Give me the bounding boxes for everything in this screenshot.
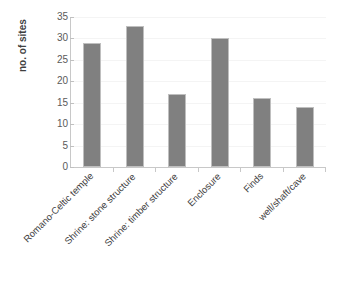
bar-chart: no. of sites 05101520253035 Romano-Celti…	[0, 0, 339, 283]
y-tick-mark	[70, 38, 74, 39]
x-tick-mark	[240, 168, 241, 172]
x-tick-mark	[155, 168, 156, 172]
bar[interactable]	[253, 98, 271, 167]
bar[interactable]	[296, 107, 314, 167]
x-tick-mark	[283, 168, 284, 172]
x-tick-label: Shrine: timber structure	[102, 171, 180, 249]
x-tick-label: Enclosure	[185, 170, 223, 208]
bar[interactable]	[126, 26, 144, 167]
y-tick-label: 35	[44, 12, 68, 22]
y-tick-label: 20	[44, 76, 68, 86]
y-axis-title: no. of sites	[14, 0, 32, 72]
y-tick-label: 30	[44, 33, 68, 43]
y-tick-label: 15	[44, 98, 68, 108]
bar[interactable]	[211, 38, 229, 167]
x-tick-mark	[198, 168, 199, 172]
x-tick-label: Shrine: stone structure	[62, 171, 137, 246]
y-tick-mark	[70, 60, 74, 61]
y-tick-mark	[70, 17, 74, 18]
y-tick-mark	[70, 167, 74, 168]
bar[interactable]	[83, 43, 101, 167]
bars-container	[71, 17, 325, 167]
y-tick-label: 25	[44, 55, 68, 65]
y-tick-label: 0	[44, 162, 68, 172]
y-tick-label: 10	[44, 119, 68, 129]
x-tick-label: Finds	[241, 170, 265, 194]
y-tick-mark	[70, 146, 74, 147]
x-tick-mark	[325, 168, 326, 172]
y-tick-label: 5	[44, 141, 68, 151]
bar[interactable]	[168, 94, 186, 167]
x-tick-mark	[113, 168, 114, 172]
y-tick-mark	[70, 81, 74, 82]
y-tick-mark	[70, 103, 74, 104]
y-tick-mark	[70, 124, 74, 125]
